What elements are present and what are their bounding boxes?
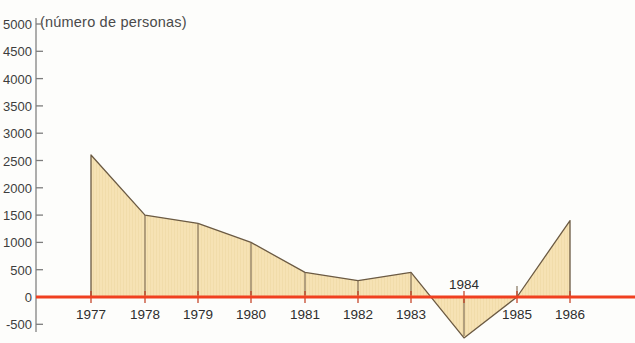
y-tick-label: 2500	[0, 153, 32, 168]
y-tick-label: 4500	[0, 44, 32, 59]
y-axis-ticks	[36, 24, 43, 324]
area-series-shape	[91, 155, 570, 338]
x-tick-label-1979: 1979	[183, 307, 213, 322]
y-tick-label: 1000	[0, 235, 32, 250]
y-tick-label: 3000	[0, 126, 32, 141]
chart-plot-area	[0, 0, 635, 343]
x-tick-label-1978: 1978	[130, 307, 160, 322]
x-tick-label-1983: 1983	[396, 307, 426, 322]
y-tick-label: 4000	[0, 71, 32, 86]
x-tick-label-1981: 1981	[290, 307, 320, 322]
x-tick-label-1982: 1982	[343, 307, 373, 322]
chart-container: (número de personas)	[0, 0, 635, 343]
y-tick-label: 5000	[0, 17, 32, 32]
x-tick-label-1984: 1984	[449, 277, 479, 292]
x-tick-label-1980: 1980	[236, 307, 266, 322]
x-tick-label-1977: 1977	[76, 307, 106, 322]
y-tick-label: 500	[0, 262, 32, 277]
x-tick-label-1986: 1986	[555, 307, 585, 322]
y-tick-label: 1500	[0, 208, 32, 223]
y-tick-label: 3500	[0, 98, 32, 113]
y-tick-label: -500	[0, 317, 32, 332]
x-tick-label-1985: 1985	[502, 307, 532, 322]
y-tick-label: 2000	[0, 180, 32, 195]
y-tick-label-zero: 0	[0, 290, 32, 305]
